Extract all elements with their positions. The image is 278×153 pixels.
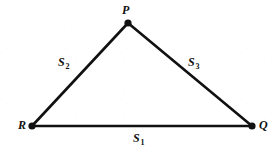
triangle-side-s2	[32, 23, 128, 126]
vertex-label-r: R	[18, 119, 26, 131]
triangle-side-s3	[128, 23, 252, 126]
side-label-s3-main: S	[188, 55, 195, 69]
vertex-dot-q	[248, 122, 255, 129]
side-label-s3-subscript: 3	[195, 62, 199, 71]
side-label-s1-main: S	[133, 131, 140, 145]
side-label-s2: S2	[58, 56, 69, 68]
vertex-label-p: P	[122, 4, 130, 16]
vertex-dot-r	[28, 122, 35, 129]
vertex-dot-p	[124, 19, 131, 26]
side-label-s2-subscript: 2	[65, 62, 69, 71]
side-label-s1: S1	[133, 132, 144, 144]
vertex-label-q: Q	[259, 119, 268, 131]
diagram-canvas: P R Q S1 S2 S3	[0, 0, 278, 153]
side-label-s2-main: S	[58, 55, 65, 69]
side-label-s1-subscript: 1	[140, 138, 144, 147]
side-label-s3: S3	[188, 56, 199, 68]
